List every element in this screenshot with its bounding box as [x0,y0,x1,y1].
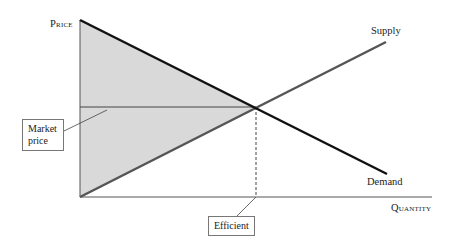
surplus-diagram [0,0,449,247]
supply-label: Supply [371,26,401,37]
market-price-callout: Market price [22,119,64,151]
demand-label: Demand [367,177,403,188]
efficient-leader [237,197,256,216]
x-axis-label: Quantity [391,203,431,214]
surplus-area [80,20,256,197]
efficient-callout: Efficient [208,216,255,236]
y-axis-label: Price [50,19,73,30]
